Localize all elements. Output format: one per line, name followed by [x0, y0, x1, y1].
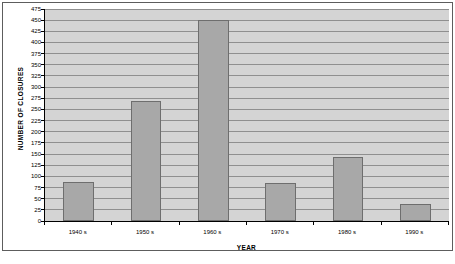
gridline	[45, 64, 449, 65]
x-axis-tick-labels: 1940 s1950 s1960 s1970 s1980 s1990 s	[44, 222, 449, 242]
plot-area	[44, 9, 449, 222]
x-axis-tick-mark	[381, 222, 382, 225]
x-axis-tick-mark	[448, 222, 449, 225]
gridline	[45, 209, 449, 210]
x-axis-tick-mark	[246, 222, 247, 225]
gridline	[45, 165, 449, 166]
gridline	[45, 75, 449, 76]
gridline	[45, 31, 449, 32]
bar	[131, 101, 162, 221]
bar	[333, 157, 364, 221]
y-axis-tick-label: 175	[17, 140, 41, 146]
x-axis-tick-mark	[313, 222, 314, 225]
gridline	[45, 87, 449, 88]
gridline	[45, 154, 449, 155]
y-axis-tick-label: 125	[17, 162, 41, 168]
gridline	[45, 109, 449, 110]
y-axis-tick-label: 25	[17, 207, 41, 213]
bar	[63, 182, 94, 221]
chart-figure: NUMBER OF CLOSURES 025507510012515017520…	[0, 0, 455, 264]
y-axis-tick-label: 325	[17, 73, 41, 79]
x-axis-tick-label: 1980 s	[313, 229, 380, 235]
x-axis-tick-mark	[179, 222, 180, 225]
x-axis-title: YEAR	[44, 244, 449, 251]
x-axis-tick-label: 1960 s	[179, 229, 246, 235]
x-axis-tick-label: 1940 s	[44, 229, 111, 235]
y-axis-tick-label: 300	[17, 84, 41, 90]
y-axis-tick-label: 75	[17, 185, 41, 191]
x-axis-tick-label: 1990 s	[381, 229, 448, 235]
x-axis-tick-label: 1950 s	[111, 229, 178, 235]
figure-frame: NUMBER OF CLOSURES 025507510012515017520…	[2, 2, 453, 251]
y-axis-tick-label: 475	[17, 6, 41, 12]
gridline	[45, 120, 449, 121]
gridline	[45, 187, 449, 188]
gridline	[45, 9, 449, 10]
bar	[198, 20, 229, 221]
y-axis-tick-label: 400	[17, 39, 41, 45]
gridline	[45, 142, 449, 143]
y-axis-tick-labels: 0255075100125150175200225250275300325350…	[17, 9, 41, 221]
y-axis-tick-label: 150	[17, 151, 41, 157]
x-axis-tick-mark	[111, 222, 112, 225]
y-axis-tick-label: 100	[17, 173, 41, 179]
y-axis-tick-label: 50	[17, 196, 41, 202]
x-axis-tick-label: 1970 s	[246, 229, 313, 235]
y-axis-tick-label: 425	[17, 28, 41, 34]
gridline	[45, 98, 449, 99]
bar	[400, 204, 431, 221]
y-axis-tick-label: 350	[17, 62, 41, 68]
y-axis-tick-label: 225	[17, 118, 41, 124]
bar	[265, 183, 296, 221]
x-axis-tick-mark	[44, 222, 45, 225]
y-axis-tick-label: 450	[17, 17, 41, 23]
gridline	[45, 42, 449, 43]
figure-caption	[4, 254, 451, 264]
gridline	[45, 176, 449, 177]
gridline	[45, 198, 449, 199]
gridline	[45, 131, 449, 132]
y-axis-tick-label: 375	[17, 51, 41, 57]
y-axis-tick-label: 275	[17, 95, 41, 101]
y-axis-tick-label: 250	[17, 106, 41, 112]
gridline	[45, 53, 449, 54]
gridline	[45, 20, 449, 21]
y-axis-tick-label: 0	[17, 218, 41, 224]
y-axis-tick-label: 200	[17, 129, 41, 135]
